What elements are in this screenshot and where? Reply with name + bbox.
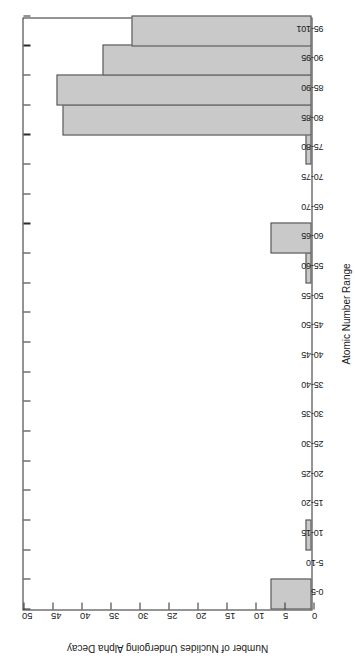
- x-axis-tick-label: 65-70: [301, 201, 323, 211]
- x-axis-tick-label: 35-40: [301, 379, 323, 389]
- y-axis-tick-label: 35: [109, 611, 129, 622]
- x-axis-title: Atomic Number Range: [340, 17, 351, 610]
- y-axis-tick-label: 20: [196, 611, 216, 622]
- x-axis-tick-label: 70-75: [301, 171, 323, 181]
- y-axis-tick-label: 5: [283, 611, 303, 622]
- y-axis-tick: [110, 602, 111, 609]
- x-axis-tick-label: 25-30: [301, 438, 323, 448]
- x-axis-tick-label: 85-90: [301, 82, 323, 92]
- x-axis-tick: [23, 311, 30, 312]
- x-axis-tick: [23, 430, 30, 431]
- plot-area: [22, 17, 312, 610]
- x-axis-tick-label: 60-65: [301, 230, 323, 240]
- x-axis-tick-label: 10-15: [301, 527, 323, 537]
- y-axis-tick-label: 40: [80, 611, 100, 622]
- x-axis-tick: [23, 549, 30, 550]
- x-axis-tick: [23, 222, 30, 223]
- y-axis-tick: [23, 602, 24, 609]
- x-axis-tick-label: 95-101: [296, 23, 323, 33]
- x-axis-tick: [23, 282, 30, 283]
- x-axis-tick: [23, 15, 30, 16]
- y-axis-tick-label: 10: [254, 611, 274, 622]
- x-axis-tick: [23, 163, 30, 164]
- bar: [102, 44, 311, 75]
- y-axis-tick: [168, 602, 169, 609]
- x-axis-tick-label: 90-95: [301, 52, 323, 62]
- y-axis-tick: [197, 602, 198, 609]
- x-axis-tick: [23, 400, 30, 401]
- x-axis-tick: [23, 252, 30, 253]
- x-axis-tick-label: 15-20: [301, 497, 323, 507]
- bar-series: [23, 18, 311, 609]
- x-axis-tick-label: 0-5: [311, 586, 323, 596]
- y-axis-tick-label: 50: [22, 611, 42, 622]
- x-axis-tick-label: 45-50: [301, 319, 323, 329]
- y-axis-tick: [81, 602, 82, 609]
- y-axis-tick-label: 25: [167, 611, 187, 622]
- x-axis-tick: [23, 371, 30, 372]
- x-axis-tick: [23, 578, 30, 579]
- y-axis-tick: [226, 602, 227, 609]
- x-axis-tick: [23, 341, 30, 342]
- alpha-decay-histogram: 0-55-1010-1515-2020-2525-3030-3535-4040-…: [0, 0, 355, 667]
- y-axis-tick: [313, 602, 314, 609]
- x-axis-tick: [23, 74, 30, 75]
- x-axis-tick: [23, 519, 30, 520]
- y-axis-tick-label: 0: [312, 611, 332, 622]
- x-axis-tick: [23, 460, 30, 461]
- x-axis-tick-label: 40-45: [301, 349, 323, 359]
- x-axis-tick-label: 50-55: [301, 290, 323, 300]
- y-axis-tick-label: 30: [138, 611, 158, 622]
- y-axis-tick: [255, 602, 256, 609]
- x-axis-tick: [23, 133, 30, 134]
- x-axis-tick: [23, 104, 30, 105]
- chart-figure-viewport: 0-55-1010-1515-2020-2525-3030-3535-4040-…: [0, 0, 355, 667]
- x-axis-tick-label: 20-25: [301, 468, 323, 478]
- x-axis-tick: [23, 44, 30, 45]
- x-axis-tick-label: 55-60: [301, 260, 323, 270]
- bar: [62, 104, 311, 135]
- bar: [56, 74, 311, 105]
- x-axis-tick: [23, 489, 30, 490]
- y-axis-tick: [139, 602, 140, 609]
- x-axis-tick-label: 5-10: [306, 557, 323, 567]
- x-axis-tick: [23, 193, 30, 194]
- y-axis-tick: [284, 602, 285, 609]
- y-axis-title: Number of Nuclides Undergoing Alpha Deca…: [22, 642, 312, 653]
- x-axis-tick-label: 30-35: [301, 408, 323, 418]
- y-axis-tick: [52, 602, 53, 609]
- y-axis-tick-label: 15: [225, 611, 245, 622]
- x-axis-tick-label: 80-85: [301, 112, 323, 122]
- y-axis-tick-label: 45: [51, 611, 71, 622]
- bar: [131, 15, 311, 46]
- bar: [270, 578, 311, 609]
- x-axis-tick-label: 75-80: [301, 141, 323, 151]
